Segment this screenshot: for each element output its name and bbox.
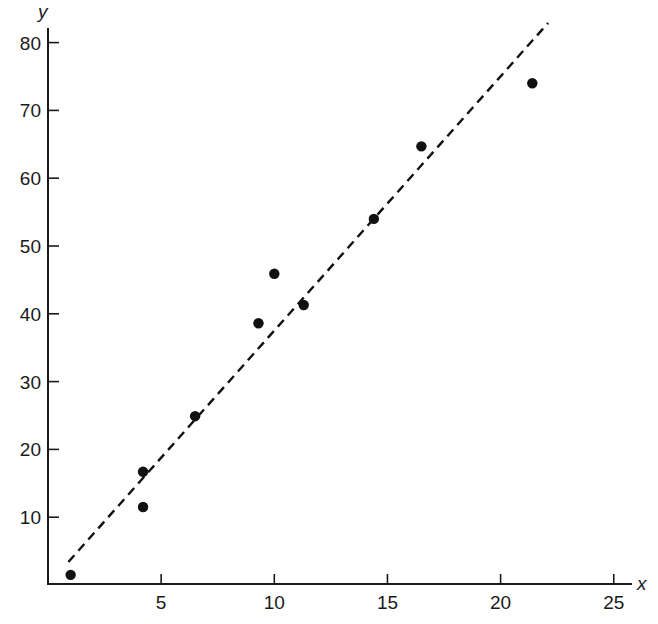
x-tick-label: 20 [490, 592, 511, 613]
y-tick-label: 10 [20, 507, 41, 528]
x-axis-label: x [636, 573, 648, 594]
y-tick-label: 60 [20, 168, 41, 189]
ticks: 5101520251020304050607080 [20, 33, 624, 613]
y-tick-label: 80 [20, 33, 41, 54]
fit-line-layer [68, 23, 548, 562]
data-point [299, 300, 309, 310]
x-tick-label: 5 [156, 592, 167, 613]
x-tick-label: 25 [603, 592, 624, 613]
data-point [253, 318, 263, 328]
y-tick-label: 70 [20, 100, 41, 121]
data-points [65, 78, 537, 580]
x-tick-label: 15 [377, 592, 398, 613]
data-point [416, 141, 426, 151]
y-tick-label: 50 [20, 236, 41, 257]
x-tick-label: 10 [264, 592, 285, 613]
y-tick-label: 20 [20, 439, 41, 460]
data-point [138, 467, 148, 477]
scatter-plot: y x 5101520251020304050607080 [0, 0, 658, 624]
data-point [527, 78, 537, 88]
data-point [269, 269, 279, 279]
y-axis-label: y [36, 1, 49, 22]
fit-line [68, 23, 548, 562]
plot-canvas: y x 5101520251020304050607080 [0, 0, 658, 624]
data-point [138, 502, 148, 512]
data-point [65, 570, 75, 580]
y-tick-label: 30 [20, 372, 41, 393]
y-tick-label: 40 [20, 304, 41, 325]
axes: y x [36, 1, 648, 594]
data-point [190, 411, 200, 421]
data-point [369, 214, 379, 224]
